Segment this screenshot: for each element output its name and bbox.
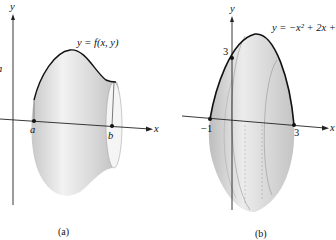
curve-label-a: y = f(x, y) [77, 38, 118, 49]
point-y-3 [230, 56, 234, 60]
point-label-a: a [30, 125, 35, 136]
point-label-b: b [108, 131, 113, 142]
tick-label-y-3: 3 [223, 47, 228, 58]
figure-b [182, 16, 329, 212]
point-a [32, 119, 36, 123]
x-axis-label-b: x [330, 123, 335, 134]
y-axis-arrow-a [11, 14, 15, 20]
end-disk-a [106, 82, 122, 168]
curve-label-b: y = −x² + 2x + [272, 23, 336, 34]
point-b [110, 124, 114, 128]
solid-of-revolution-b [209, 34, 294, 212]
tick-label-x-neg1: −1 [201, 124, 212, 135]
y-axis-label-a: y [10, 2, 15, 13]
point-x-neg1 [208, 117, 212, 121]
edge-fragment-a: a [0, 64, 2, 75]
y-axis-label-b: y [230, 4, 235, 15]
y-axis-arrow-b [230, 16, 234, 22]
x-axis-label-a: x [154, 124, 159, 135]
x-axis-arrow-a [146, 127, 153, 132]
caption-a: (a) [58, 226, 69, 237]
x-axis-arrow-b [322, 126, 329, 131]
tick-label-x-3: 3 [294, 128, 299, 139]
caption-b: (b) [255, 228, 267, 239]
